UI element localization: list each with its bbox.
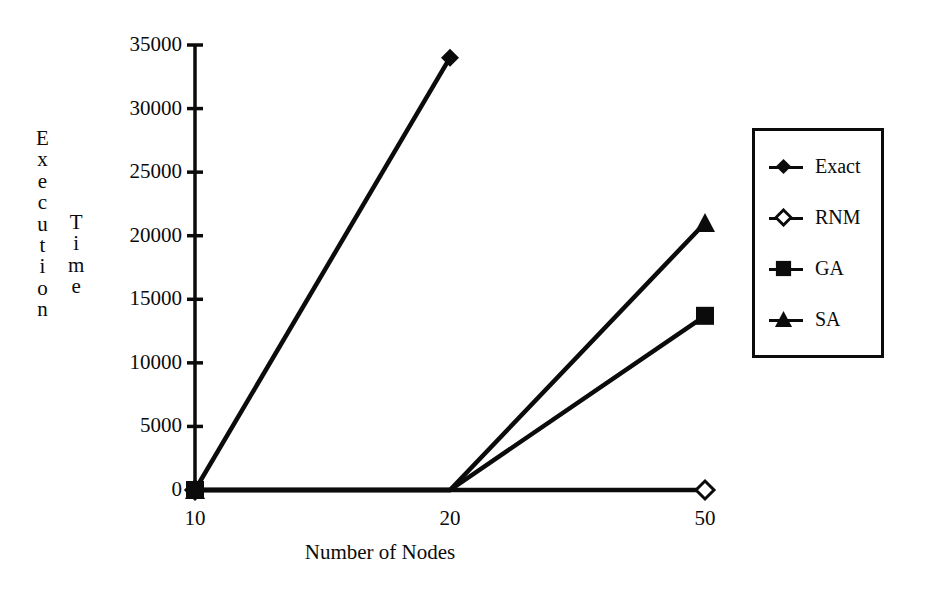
legend-marker-open-diamond-glyph bbox=[774, 208, 793, 227]
legend-item-label: RNM bbox=[815, 206, 861, 229]
legend-item[interactable]: Exact bbox=[769, 150, 881, 184]
chart-figure: Execution Time 3500030000250002000015000… bbox=[0, 0, 927, 592]
legend-marker-filled-triangle-glyph bbox=[774, 310, 793, 329]
legend-items: ExactRNMGASA bbox=[755, 131, 881, 355]
legend-marker-filled-diamond bbox=[769, 157, 803, 177]
legend-item[interactable]: RNM bbox=[769, 201, 881, 235]
series-lines bbox=[195, 58, 705, 490]
legend-marker-open-diamond bbox=[769, 208, 803, 228]
legend-item[interactable]: SA bbox=[769, 303, 881, 337]
legend-item-label: Exact bbox=[815, 155, 861, 178]
legend-marker-filled-square-glyph bbox=[774, 259, 793, 278]
axis-lines bbox=[187, 45, 203, 490]
legend-marker-filled-triangle bbox=[769, 310, 803, 330]
series-markers bbox=[185, 49, 715, 499]
legend-item[interactable]: GA bbox=[769, 252, 881, 286]
legend-marker-filled-square bbox=[769, 259, 803, 279]
legend-item-label: GA bbox=[815, 257, 844, 280]
legend-item-label: SA bbox=[815, 308, 841, 331]
legend: ExactRNMGASA bbox=[752, 128, 884, 358]
legend-marker-filled-diamond-glyph bbox=[774, 157, 793, 176]
